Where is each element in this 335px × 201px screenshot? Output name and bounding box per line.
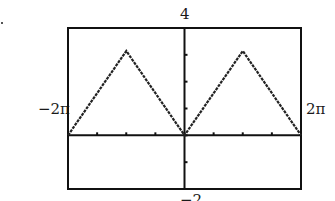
graph-window	[0, 0, 335, 201]
